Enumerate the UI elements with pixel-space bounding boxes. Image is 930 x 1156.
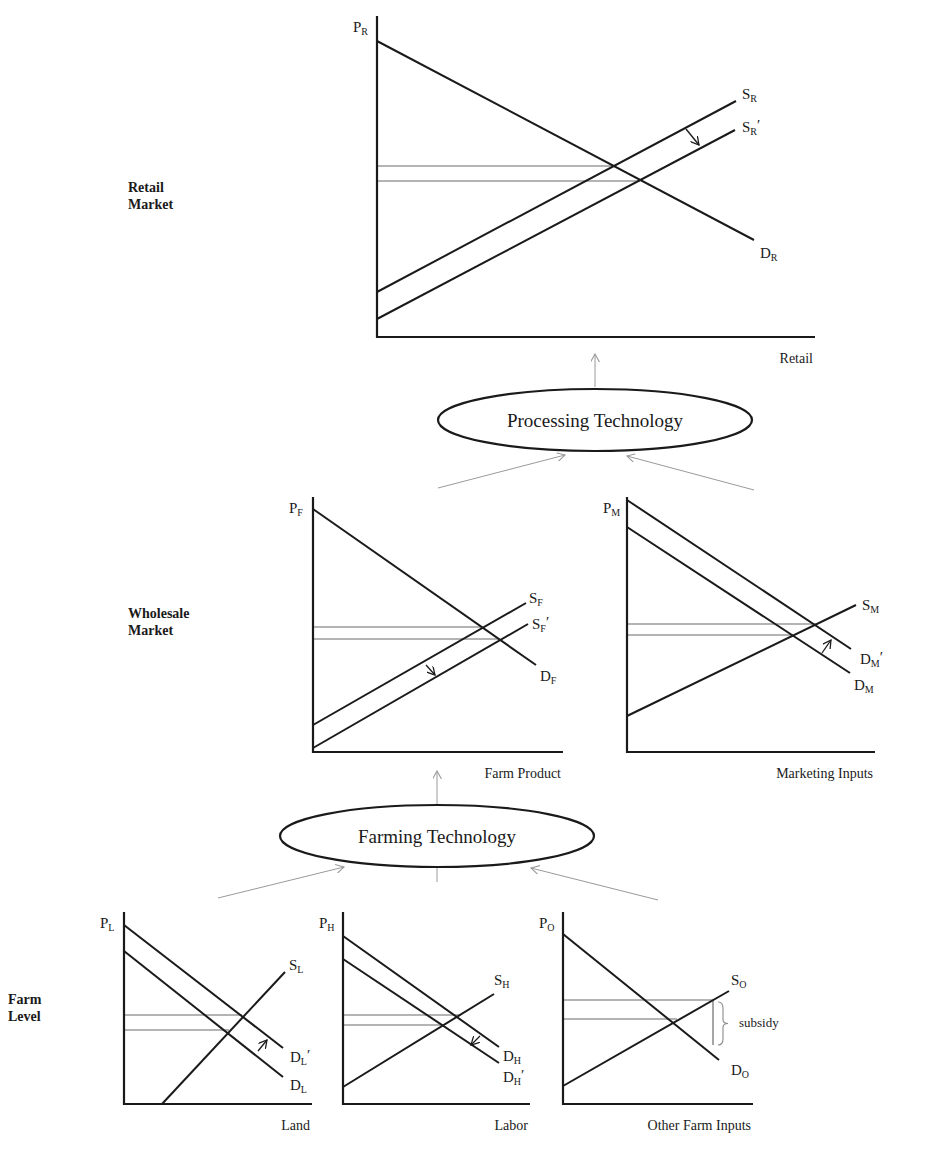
flow-arrow-icon xyxy=(531,868,658,900)
demand-curve xyxy=(627,500,851,649)
level-label-farm: FarmLevel xyxy=(8,992,42,1024)
shift-arrow-icon xyxy=(426,665,435,675)
chart-axes xyxy=(563,912,753,1104)
shift-arrow-icon xyxy=(471,1036,480,1045)
tech-node-processing: Processing Technology xyxy=(438,389,752,451)
curve-label: SF′ xyxy=(532,614,549,634)
subsidy-label: subsidy xyxy=(739,1015,779,1030)
supply-curve xyxy=(313,624,528,748)
supply-demand-charts: DRSRSR′PRRetailDFSFSF′PFFarm ProductDMDM… xyxy=(100,16,883,1133)
y-axis-label: PO xyxy=(539,915,555,933)
curve-label: DH xyxy=(503,1048,521,1066)
shift-arrow-icon xyxy=(258,1040,267,1051)
level-label-retail: RetailMarket xyxy=(128,180,173,212)
chart-marketing-inputs: DMDM′SMPMMarketing Inputs xyxy=(603,497,883,781)
technology-nodes: Processing TechnologyFarming Technology xyxy=(280,389,752,867)
curve-label: SO xyxy=(731,972,747,990)
supply-curve xyxy=(563,991,729,1086)
demand-curve xyxy=(343,959,499,1063)
brace-icon xyxy=(718,1002,728,1045)
curve-label: SR xyxy=(742,86,757,104)
supply-curve xyxy=(627,605,856,716)
y-axis-label: PR xyxy=(353,19,368,37)
curve-label: DL′ xyxy=(290,1047,310,1067)
y-axis-label: PF xyxy=(289,500,303,518)
chart-labor: DHDH′SHPHLabor xyxy=(319,912,530,1133)
curve-label: DL xyxy=(290,1077,307,1095)
demand-curve xyxy=(627,527,850,673)
curve-label: SF xyxy=(529,590,543,608)
demand-curve xyxy=(377,41,754,240)
x-axis-label: Marketing Inputs xyxy=(776,766,873,781)
curve-label: DM′ xyxy=(860,649,883,669)
level-label-wholesale: WholesaleMarket xyxy=(128,606,189,638)
x-axis-label: Land xyxy=(281,1118,310,1133)
demand-curve xyxy=(313,509,536,665)
y-axis-label: PM xyxy=(603,500,620,518)
market-level-labels: RetailMarketWholesaleMarketFarmLevel xyxy=(8,180,189,1024)
x-axis-label: Labor xyxy=(495,1118,529,1133)
flow-arrow-icon xyxy=(438,455,565,488)
tech-node-farming: Farming Technology xyxy=(280,805,594,867)
y-axis-label: PH xyxy=(319,915,335,933)
chart-retail: DRSRSR′PRRetail xyxy=(353,16,815,366)
market-linkage-diagram: DRSRSR′PRRetailDFSFSF′PFFarm ProductDMDM… xyxy=(0,0,930,1156)
supply-curve xyxy=(343,994,494,1087)
chart-farm-product: DFSFSF′PFFarm Product xyxy=(289,497,563,781)
flow-arrow-icon xyxy=(218,867,344,898)
x-axis-label: Retail xyxy=(780,351,814,366)
curve-label: DM xyxy=(854,677,874,695)
chart-other-farm-inputs: subsidyDOSOPOOther Farm Inputs xyxy=(539,912,779,1133)
chart-axes xyxy=(343,912,530,1104)
supply-curve xyxy=(162,972,285,1104)
curve-label: SM xyxy=(862,597,879,615)
demand-curve xyxy=(343,936,499,1047)
shift-arrow-icon xyxy=(686,129,699,145)
supply-curve xyxy=(377,101,736,292)
chart-land: DLDL′SLPLLand xyxy=(100,912,312,1133)
chart-axes xyxy=(124,912,312,1104)
curve-label: DR xyxy=(760,245,778,263)
x-axis-label: Other Farm Inputs xyxy=(648,1118,751,1133)
supply-curve xyxy=(313,603,526,725)
tech-label: Processing Technology xyxy=(507,410,684,431)
shift-arrow-icon xyxy=(822,640,831,653)
curve-label: SH xyxy=(494,972,510,990)
curve-label: DO xyxy=(731,1062,749,1080)
curve-label: DH′ xyxy=(503,1067,524,1087)
y-axis-label: PL xyxy=(100,915,114,933)
curve-label: SL xyxy=(289,957,303,975)
supply-curve xyxy=(377,130,735,319)
tech-label: Farming Technology xyxy=(358,826,517,847)
flow-arrow-icon xyxy=(627,456,754,490)
curve-label: SR′ xyxy=(742,117,760,137)
curve-label: DF xyxy=(540,668,557,686)
x-axis-label: Farm Product xyxy=(484,766,561,781)
